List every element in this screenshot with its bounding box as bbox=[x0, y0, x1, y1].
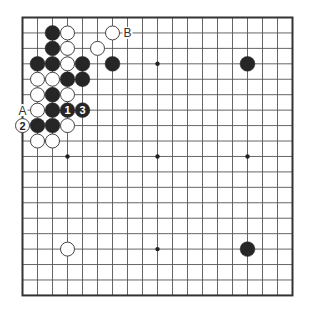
black-stone bbox=[60, 72, 75, 87]
black-stone bbox=[45, 26, 60, 41]
white-stone bbox=[61, 119, 75, 133]
white-stone bbox=[61, 26, 75, 40]
white-stone bbox=[31, 88, 45, 102]
white-stone bbox=[61, 41, 75, 55]
white-stone bbox=[46, 134, 60, 148]
move-number-1: 1 bbox=[64, 104, 70, 116]
black-stone bbox=[45, 118, 60, 133]
black-stone: 3 bbox=[75, 103, 90, 118]
white-stone bbox=[91, 41, 105, 55]
star-point bbox=[245, 154, 249, 158]
black-stone bbox=[45, 87, 60, 102]
white-stone bbox=[31, 134, 45, 148]
black-stone bbox=[240, 56, 255, 71]
black-stone bbox=[45, 103, 60, 118]
white-stone bbox=[61, 88, 75, 102]
white-stone bbox=[61, 57, 75, 71]
white-stone bbox=[61, 242, 75, 256]
black-stone bbox=[240, 242, 255, 257]
white-stone: 2 bbox=[16, 119, 30, 133]
move-number-2: 2 bbox=[19, 120, 25, 132]
black-stone bbox=[45, 56, 60, 71]
black-stone bbox=[30, 118, 45, 133]
star-point bbox=[155, 62, 159, 66]
move-number-3: 3 bbox=[79, 104, 85, 116]
point-label-b: B bbox=[123, 26, 131, 40]
black-stone bbox=[105, 56, 120, 71]
black-stone bbox=[30, 56, 45, 71]
black-stone bbox=[75, 56, 90, 71]
star-point bbox=[155, 247, 159, 251]
black-stone bbox=[75, 72, 90, 87]
white-stone bbox=[31, 103, 45, 117]
white-stone bbox=[106, 26, 120, 40]
black-stone: 1 bbox=[60, 103, 75, 118]
star-point bbox=[65, 154, 69, 158]
go-board-diagram: AB 132 bbox=[0, 0, 309, 320]
star-point bbox=[155, 154, 159, 158]
point-label-a: A bbox=[18, 104, 26, 118]
white-stone bbox=[46, 72, 60, 86]
white-stone bbox=[31, 72, 45, 86]
black-stone bbox=[45, 41, 60, 56]
